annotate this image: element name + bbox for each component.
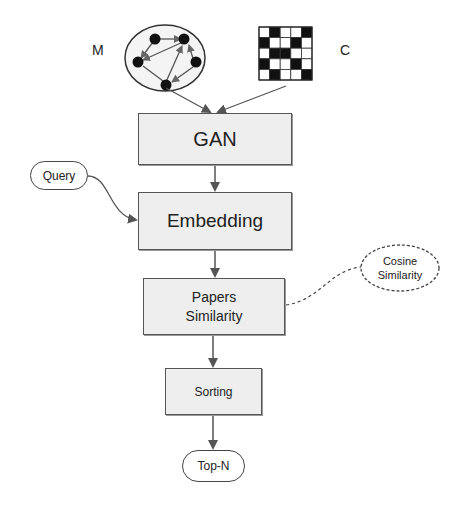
sorting-box: Sorting (165, 368, 262, 415)
sorting-label: Sorting (194, 385, 232, 399)
papers-similarity-line2: Similarity (186, 307, 243, 326)
cosine-line2: Similarity (378, 268, 423, 282)
embedding-label: Embedding (167, 210, 263, 232)
query-pill: Query (30, 161, 88, 190)
papers-similarity-box: Papers Similarity (143, 278, 285, 335)
cosine-similarity-bubble: Cosine Similarity (361, 245, 439, 291)
label-c: C (340, 42, 350, 58)
label-m: M (92, 42, 104, 58)
cosine-line1: Cosine (383, 254, 417, 268)
query-label: Query (43, 169, 76, 183)
diagram-canvas: M C GAN Query Embedding Papers Similarit… (0, 0, 463, 509)
gan-label: GAN (193, 128, 236, 151)
embedding-box: Embedding (138, 192, 292, 250)
graph-m (125, 25, 205, 91)
matrix-c (259, 27, 312, 80)
gan-box: GAN (138, 113, 292, 165)
top-n-pill: Top-N (182, 450, 245, 482)
papers-similarity-line1: Papers (192, 288, 236, 307)
top-n-label: Top-N (197, 459, 229, 473)
